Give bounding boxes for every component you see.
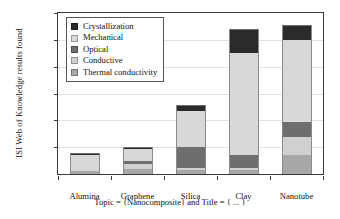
x-tick-mark: [111, 176, 112, 180]
legend-swatch-thermal-conductivity: [71, 69, 78, 76]
bar-segment: [282, 155, 312, 174]
bar-segment: [70, 155, 100, 170]
bar-segment: [123, 149, 153, 160]
bar-clay: [229, 13, 259, 174]
x-tick-mark: [164, 176, 165, 180]
bar-segment: [123, 148, 153, 149]
x-axis-title: Topic = {Nanocomposite} and Title = { ..…: [0, 197, 340, 207]
x-tick-mark: [58, 176, 59, 180]
bar-segment: [176, 111, 206, 147]
legend-item: Optical: [71, 44, 157, 55]
bar-segment: [282, 137, 312, 154]
stacked-bar-chart: ISI Web of Knowledge results found 20040…: [0, 0, 340, 219]
bar-top-cap: [229, 29, 259, 30]
bar-top-cap: [70, 153, 100, 154]
bar-segment: [229, 155, 259, 168]
bar-segment: [176, 106, 206, 111]
bar-segment: [176, 170, 206, 174]
bar-nanotube: [282, 13, 312, 174]
bar-top-cap: [123, 147, 153, 148]
bar-silica: [176, 13, 206, 174]
bar-segment: [282, 26, 312, 39]
y-axis-title: ISI Web of Knowledge results found: [14, 13, 24, 173]
bar-top-cap: [176, 105, 206, 106]
bar-segment: [282, 40, 312, 122]
bar-segment: [229, 53, 259, 154]
legend-label: Conductive: [83, 55, 123, 66]
plot-area: 20040060080010001200 AluminaGrapheneSili…: [57, 12, 324, 175]
bar-segment: [229, 30, 259, 53]
bar-segment: [229, 168, 259, 170]
legend-swatch-optical: [71, 46, 78, 53]
legend-label: Mechanical: [83, 32, 123, 43]
legend-label: Optical: [83, 44, 108, 55]
bar-segment: [176, 168, 206, 170]
legend-item: Crystallization: [71, 21, 157, 32]
legend-item: Thermal conductivity: [71, 67, 157, 78]
legend-swatch-mechanical: [71, 35, 78, 42]
bar-segment: [176, 147, 206, 168]
x-tick-mark: [217, 176, 218, 180]
x-tick-mark: [323, 176, 324, 180]
legend-item: Mechanical: [71, 32, 157, 43]
legend-swatch-conductive: [71, 57, 78, 64]
bar-segment: [229, 170, 259, 174]
bar-segment: [70, 154, 100, 156]
bar-segment: [123, 164, 153, 169]
bar-top-cap: [282, 25, 312, 26]
x-tick-mark: [270, 176, 271, 180]
bar-segment: [282, 122, 312, 137]
legend-label: Thermal conductivity: [83, 67, 157, 78]
bar-segment: [123, 161, 153, 164]
bar-segment: [123, 169, 153, 174]
legend-swatch-crystallization: [71, 23, 78, 30]
legend-item: Conductive: [71, 55, 157, 66]
legend: Crystallization Mechanical Optical Condu…: [66, 17, 164, 82]
legend-label: Crystallization: [83, 21, 134, 32]
bar-segment: [70, 171, 100, 174]
